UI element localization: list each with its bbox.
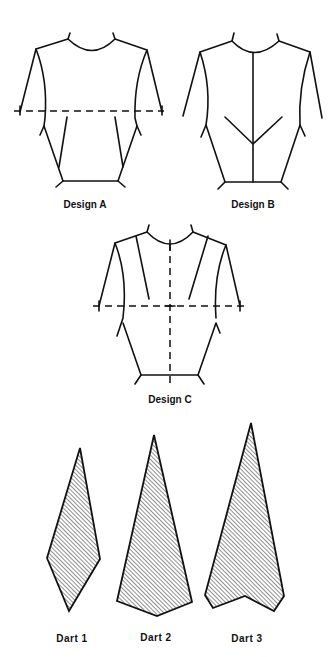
design-a-bodice xyxy=(14,33,164,187)
design-c-label: Design C xyxy=(148,394,191,405)
dart-3-label: Dart 3 xyxy=(231,633,262,644)
dart-1-label: Dart 1 xyxy=(56,633,87,644)
design-c-bodice xyxy=(93,225,245,384)
dart-3-shape xyxy=(205,423,284,611)
design-b-bodice xyxy=(183,33,322,189)
design-a-label: Design A xyxy=(64,199,107,210)
dart-1-shape xyxy=(47,448,100,611)
dart-2-shape xyxy=(117,435,192,616)
diagram-canvas xyxy=(0,0,336,657)
design-b-label: Design B xyxy=(231,199,274,210)
dart-2-label: Dart 2 xyxy=(140,632,171,643)
